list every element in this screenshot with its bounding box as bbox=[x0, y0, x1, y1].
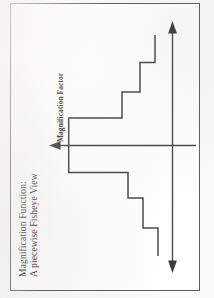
step-function-upper-branch bbox=[69, 35, 155, 146]
plot-area bbox=[0, 0, 214, 298]
magnification-axis-arrowhead-down-icon bbox=[168, 261, 177, 274]
step-function-lower-branch bbox=[69, 146, 158, 257]
magnification-axis-arrowhead-up-icon bbox=[168, 21, 177, 34]
position-axis-arrowhead-icon bbox=[49, 141, 61, 150]
figure-page: Magnification Function:A piecewise Fishe… bbox=[0, 0, 214, 298]
